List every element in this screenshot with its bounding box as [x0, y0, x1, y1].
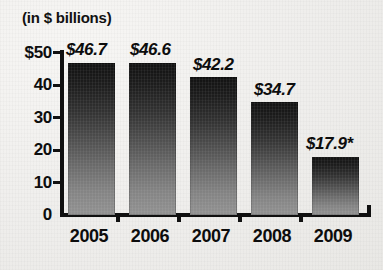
value-label-2006: $46.6 [130, 40, 171, 60]
bar-2009[interactable] [312, 157, 359, 215]
x-tick-1 [116, 217, 120, 222]
y-axis-label-10: 10 [0, 173, 52, 193]
chart-title: (in $ billions) [22, 9, 112, 26]
y-axis-label-20: 20 [0, 140, 52, 160]
bar-2006[interactable] [129, 63, 176, 215]
value-label-2009: $17.9* [306, 134, 353, 154]
y-axis-label-40: 40 [0, 75, 52, 95]
y-axis-label-0: 0 [0, 205, 52, 225]
value-label-2007: $42.2 [193, 55, 234, 75]
x-axis-label-2009: 2009 [288, 226, 378, 247]
value-label-2005: $46.7 [66, 40, 107, 60]
x-tick-3 [238, 217, 242, 222]
value-label-2008: $34.7 [254, 80, 295, 100]
bar-2005[interactable] [68, 63, 115, 215]
x-tick-2 [177, 217, 181, 222]
x-tick-4 [299, 217, 303, 222]
bar-2008[interactable] [251, 102, 298, 215]
bar-2007[interactable] [190, 77, 237, 215]
y-axis-label-30: 30 [0, 108, 52, 128]
y-axis-label-50: $50 [0, 43, 52, 63]
bar-chart: (in $ billions) $50 40 30 20 10 0 $46.7 … [0, 0, 383, 270]
